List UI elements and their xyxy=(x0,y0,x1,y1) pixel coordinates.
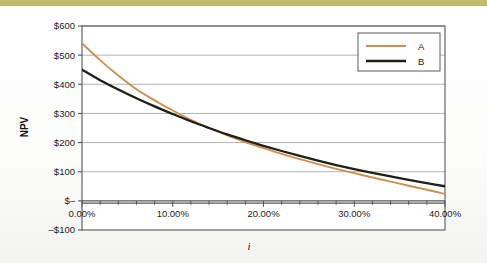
npv-vs-i-line-chart: $600$500$400$300$200$100$––$100 0.00%10.… xyxy=(0,0,487,263)
x-axis-tick-label: 0.00% xyxy=(69,208,96,219)
y-axis-tick-label: $300 xyxy=(54,108,75,119)
y-axis-tick-label: $– xyxy=(64,195,75,206)
x-axis-tick-label: 20.00% xyxy=(247,208,280,219)
y-axis-tick-labels: $600$500$400$300$200$100$––$100 xyxy=(49,20,76,235)
y-axis-title: NPV xyxy=(19,116,30,137)
y-axis-tick-label: $200 xyxy=(54,137,75,148)
legend-box xyxy=(358,33,440,71)
chart-legend: AB xyxy=(358,33,440,71)
x-axis-tick-label: 40.00% xyxy=(429,208,462,219)
x-axis-tick-label: 10.00% xyxy=(157,208,190,219)
y-axis-tick-label: $500 xyxy=(54,50,75,61)
y-axis-tick-label: $400 xyxy=(54,79,75,90)
x-axis-tick-label: 30.00% xyxy=(338,208,371,219)
chart-figure: $600$500$400$300$200$100$––$100 0.00%10.… xyxy=(0,0,487,263)
y-axis-tick-label: –$100 xyxy=(49,224,75,235)
x-axis-title: i xyxy=(248,241,251,252)
legend-label-a: A xyxy=(418,41,425,52)
legend-label-b: B xyxy=(418,56,424,67)
y-axis-ticks xyxy=(78,26,82,230)
y-axis-tick-label: $600 xyxy=(54,20,75,31)
y-axis-tick-label: $100 xyxy=(54,166,75,177)
